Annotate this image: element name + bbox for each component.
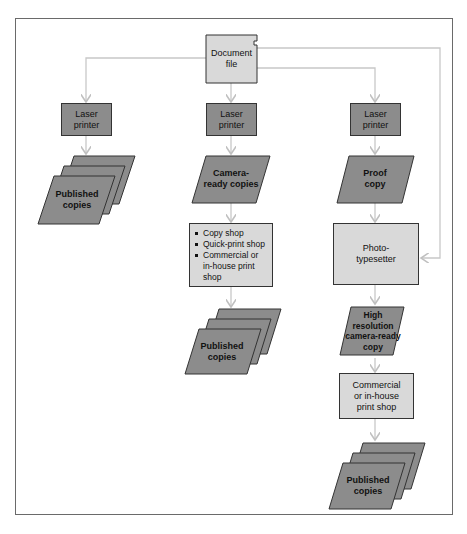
hires-label-4: copy <box>363 342 383 352</box>
output-label-2: copies <box>354 486 383 496</box>
laser-printer-right: Laserprinter <box>350 103 401 136</box>
print-shop-options: Copy shop Quick-print shop Commercial or… <box>189 223 273 287</box>
shop-label-3: print shop <box>357 402 397 412</box>
shop-label-1: Commercial <box>352 380 400 390</box>
proof-copy: Proofcopy <box>342 164 408 194</box>
output-label-1: Published <box>55 189 98 199</box>
camera-ready-label-2: ready copies <box>203 179 258 189</box>
printer-label-1: Laser <box>220 109 243 119</box>
camera-ready-label-1: Camera- <box>213 168 249 178</box>
high-resolution-copy: Highresolutioncamera-readycopy <box>342 309 404 353</box>
output-label-1: Published <box>200 341 243 351</box>
output-label-2: copies <box>63 200 92 210</box>
output-label-1: Published <box>346 475 389 485</box>
typesetter-label-2: typesetter <box>356 254 396 264</box>
shop-option: Commercial or in-house print shop <box>195 250 268 283</box>
printer-label-2: printer <box>363 120 389 130</box>
camera-ready-copies: Camera-ready copies <box>196 164 266 194</box>
proof-label-1: Proof <box>363 168 387 178</box>
laser-printer-left: Laserprinter <box>61 103 112 136</box>
printer-label-1: Laser <box>75 109 98 119</box>
shop-label-2: or in-house <box>354 391 399 401</box>
commercial-print-shop: Commercialor in-houseprint shop <box>339 373 414 419</box>
typesetter-label-1: Photo- <box>363 243 390 253</box>
printer-label-1: Laser <box>364 109 387 119</box>
published-copies-middle: Publishedcopies <box>190 338 254 366</box>
photo-typesetter: Photo-typesetter <box>333 223 419 285</box>
hires-label-2: resolution <box>352 321 393 331</box>
printer-label-2: printer <box>219 120 245 130</box>
hires-label-1: High <box>364 310 383 320</box>
published-copies-right: Publishedcopies <box>336 472 400 500</box>
shop-option: Quick-print shop <box>195 239 268 250</box>
document-file: Documentfile <box>206 44 257 74</box>
output-label-2: copies <box>208 352 237 362</box>
hires-label-3: camera-ready <box>345 331 400 341</box>
proof-label-2: copy <box>364 179 385 189</box>
document-file-label-1: Document <box>211 48 252 58</box>
laser-printer-middle: Laserprinter <box>206 103 257 136</box>
printer-label-2: printer <box>74 120 100 130</box>
document-file-label-2: file <box>226 59 238 69</box>
shop-option: Copy shop <box>195 228 268 239</box>
published-copies-left: Publishedcopies <box>42 186 112 214</box>
